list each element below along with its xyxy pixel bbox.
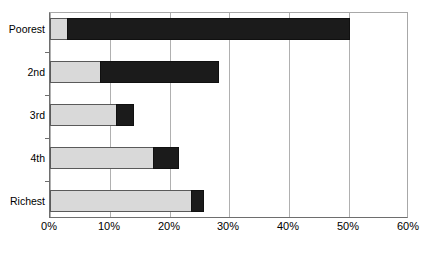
x-tick-label-10: 10% — [98, 220, 120, 232]
x-tick-label-50: 50% — [337, 220, 359, 232]
bar-row: Poorest — [50, 18, 350, 40]
bar-segment-light — [50, 61, 101, 83]
bar-segment-dark — [153, 147, 179, 169]
gridline-30 — [229, 13, 230, 217]
y-axis-label-richest: Richest — [10, 190, 45, 212]
y-tick-1 — [45, 95, 50, 96]
y-tick-0 — [45, 52, 50, 53]
x-tick-label-30: 30% — [217, 220, 239, 232]
y-axis-label-2nd: 2nd — [27, 61, 45, 83]
bar-segment-dark — [67, 18, 350, 40]
y-tick-3 — [45, 181, 50, 182]
y-axis-label-4th: 4th — [30, 147, 45, 169]
bar-row: Richest — [50, 190, 204, 212]
bar-segment-dark — [191, 190, 204, 212]
chart-container: Poorest 2nd 3rd 4th Richest 0% 10% 20% 3… — [0, 0, 426, 257]
bar-row: 3rd — [50, 104, 134, 126]
bar-row: 2nd — [50, 61, 219, 83]
x-tick-label-60: 60% — [397, 220, 419, 232]
y-tick-2 — [45, 138, 50, 139]
bar-segment-light — [50, 104, 117, 126]
gridline-20 — [170, 13, 171, 217]
y-axis-label-poorest: Poorest — [9, 18, 45, 40]
gridline-40 — [289, 13, 290, 217]
bar-segment-dark — [116, 104, 134, 126]
bar-segment-light — [50, 147, 154, 169]
x-tick-label-20: 20% — [158, 220, 180, 232]
y-axis-label-3rd: 3rd — [30, 104, 45, 126]
gridline-50 — [349, 13, 350, 217]
plot-area: Poorest 2nd 3rd 4th Richest — [49, 12, 408, 218]
bar-segment-light — [50, 190, 192, 212]
x-tick-label-0: 0% — [41, 220, 57, 232]
bar-segment-light — [50, 18, 68, 40]
x-tick-label-40: 40% — [277, 220, 299, 232]
bar-row: 4th — [50, 147, 179, 169]
bar-segment-dark — [100, 61, 219, 83]
